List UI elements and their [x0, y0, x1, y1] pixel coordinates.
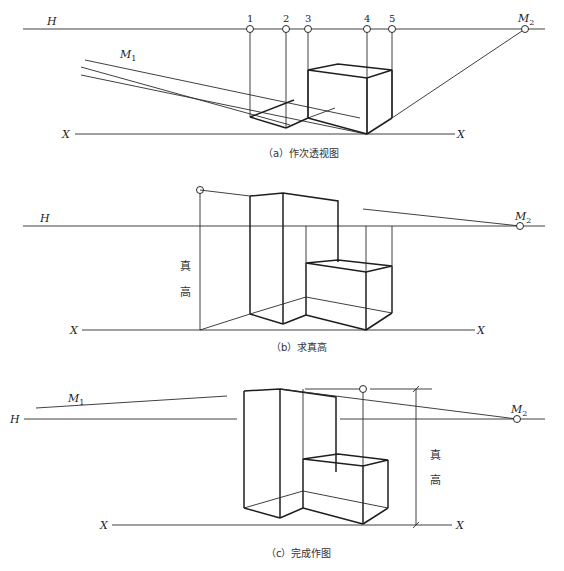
converging-line-a1: [85, 60, 360, 118]
small-block-edge-c: [303, 508, 363, 524]
converging-line-a3: [81, 75, 366, 134]
figure-a: H X X M1: [23, 12, 545, 159]
point-label-2: 2: [283, 13, 289, 24]
point-label-1: 1: [247, 13, 253, 24]
line-to-m2-b: [363, 209, 520, 226]
point-2: [283, 26, 290, 33]
hidden-edge: [250, 297, 306, 314]
figure-c: M1 H X X M2 真: [9, 386, 545, 560]
construction-line: [200, 314, 250, 330]
caption-a: （a）作次透视图: [263, 147, 339, 159]
m1-line-c: [36, 396, 227, 408]
ground-label-left-a: X: [61, 128, 71, 141]
point-3: [305, 26, 312, 33]
hidden-edge-c: [303, 491, 388, 508]
tall-block-edge: [283, 315, 306, 324]
converging-line-a2: [81, 67, 290, 125]
small-block-edge: [366, 313, 392, 330]
small-block-edge-c: [363, 508, 388, 524]
ground-label-right-a: X: [456, 128, 466, 141]
horizon-label-a: H: [46, 15, 57, 28]
line-to-m2-c: [280, 389, 517, 419]
true-height-char1-c: 真: [430, 448, 441, 462]
box-top: [308, 64, 392, 78]
true-height-char2-c: 高: [430, 473, 441, 487]
m2-label-a: M2: [517, 12, 534, 27]
line-to-m2-a: [392, 29, 525, 118]
tall-block-edge-c: [280, 508, 303, 518]
point-m2-c: [514, 416, 521, 423]
point-label-5: 5: [389, 13, 395, 24]
m1-label-a: M1: [119, 48, 136, 63]
hidden-edge-c: [244, 491, 303, 508]
ground-label-left-c: X: [99, 519, 109, 532]
horizon-label-b: H: [39, 212, 50, 225]
small-block-top: [306, 260, 392, 272]
caption-b: （b）求真高: [271, 341, 327, 353]
box-edge: [308, 118, 367, 134]
figure-b: H X X 真 高 M2 （b）求真高: [23, 187, 545, 354]
construction-point-c: [360, 386, 367, 393]
tall-block-edge: [250, 314, 283, 324]
m1-label-c: M1: [67, 392, 84, 407]
small-block-edge: [306, 315, 366, 330]
true-height-char2-b: 高: [180, 285, 191, 299]
point-label-4: 4: [364, 13, 370, 24]
m2-label-c: M2: [510, 403, 527, 418]
ground-label-right-b: X: [476, 324, 486, 337]
point-label-3: 3: [305, 13, 311, 24]
point-1: [247, 26, 254, 33]
horizon-label-c: H: [9, 413, 20, 426]
construction-line: [200, 190, 250, 196]
tall-block-top: [250, 193, 338, 262]
caption-c: （c）完成作图: [266, 547, 332, 559]
point-4: [364, 26, 371, 33]
m2-label-b: M2: [514, 210, 531, 225]
box-edge: [367, 118, 392, 134]
perspective-diagrams: H X X M1: [0, 0, 564, 571]
tall-block-top-c: [244, 389, 336, 472]
true-height-char1-b: 真: [180, 259, 191, 273]
point-m2-b: [517, 223, 524, 230]
ground-label-left-b: X: [69, 324, 79, 337]
ground-label-right-c: X: [455, 519, 465, 532]
hidden-edge: [306, 297, 392, 313]
small-block-top-c: [303, 454, 388, 466]
point-m2-a: [522, 26, 529, 33]
point-5: [389, 26, 396, 33]
tall-block-edge-c: [244, 508, 280, 518]
